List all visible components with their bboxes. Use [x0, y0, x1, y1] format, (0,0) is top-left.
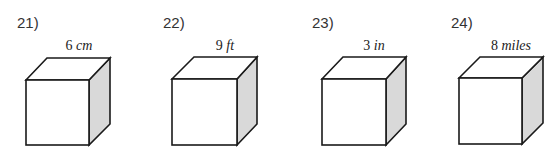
cube-diagram	[0, 0, 553, 156]
